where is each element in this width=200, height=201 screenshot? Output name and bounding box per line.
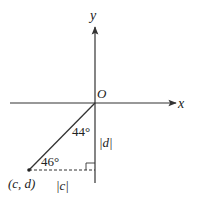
lower-angle-label: 46°: [41, 154, 59, 169]
horizontal-length-label: |c|: [56, 178, 69, 193]
right-angle-marker: [86, 163, 95, 170]
point-label: (c, d): [8, 176, 35, 191]
y-axis-label: y: [88, 8, 97, 23]
coordinate-diagram: y x O 44° 46° |d| |c| (c, d): [0, 0, 200, 201]
origin-label: O: [97, 86, 107, 101]
upper-angle-label: 44°: [72, 124, 90, 139]
vertical-length-label: |d|: [99, 135, 113, 150]
point-dot: [27, 168, 31, 172]
x-axis-label: x: [177, 96, 185, 111]
